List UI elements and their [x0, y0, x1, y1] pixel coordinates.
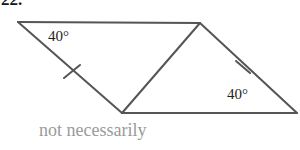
right-edge-line [200, 23, 297, 113]
figure-caption: not necessarily [39, 120, 146, 140]
angle-label-upper-left: 40° [48, 29, 69, 44]
diagonal-line [122, 23, 200, 113]
top-edge-line [18, 22, 200, 23]
left-edge-line [18, 22, 122, 113]
figure-page: 22. 40° 40° not necessarily [0, 0, 300, 150]
angle-label-lower-right: 40° [227, 87, 248, 102]
congruence-tick-left-icon [64, 65, 80, 78]
